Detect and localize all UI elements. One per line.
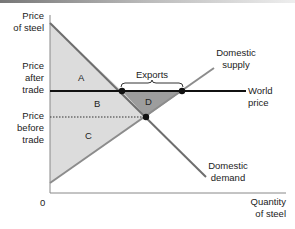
demand-label-line: Domestic (200, 160, 256, 172)
origin-label: 0 (40, 197, 45, 209)
region-c-label: C (85, 130, 92, 142)
supply-label-line: supply (206, 59, 266, 71)
label-line: trade (0, 84, 44, 96)
price-before-trade-label: Price before trade (0, 110, 44, 146)
supply-label: Domestic supply (206, 47, 266, 71)
point-demand-world (119, 88, 125, 94)
x-axis-label: Quantity of steel (236, 196, 286, 220)
chart-canvas (0, 0, 295, 229)
region-a-label: A (78, 72, 84, 84)
y-axis-label-line: of steel (0, 22, 44, 34)
supply-label-line: Domestic (206, 47, 266, 59)
world-price-label-line: World (248, 85, 273, 97)
y-axis-label: Price of steel (0, 10, 44, 34)
world-price-label: World price (248, 85, 273, 109)
region-b-label: B (94, 98, 100, 110)
x-axis-label-line: of steel (236, 208, 286, 220)
point-equilibrium (143, 114, 149, 120)
exports-brace (121, 80, 183, 87)
x-axis-label-line: Quantity (236, 196, 286, 208)
exports-label: Exports (127, 69, 177, 81)
region-d-label: D (145, 96, 152, 108)
world-price-label-line: price (248, 97, 273, 109)
label-line: Price (0, 60, 44, 72)
demand-label: Domestic demand (200, 160, 256, 184)
point-supply-world (179, 88, 185, 94)
label-line: Price (0, 110, 44, 122)
label-line: before (0, 122, 44, 134)
y-axis-label-line: Price (0, 10, 44, 22)
demand-label-line: demand (200, 172, 256, 184)
label-line: trade (0, 134, 44, 146)
label-line: after (0, 72, 44, 84)
price-after-trade-label: Price after trade (0, 60, 44, 96)
